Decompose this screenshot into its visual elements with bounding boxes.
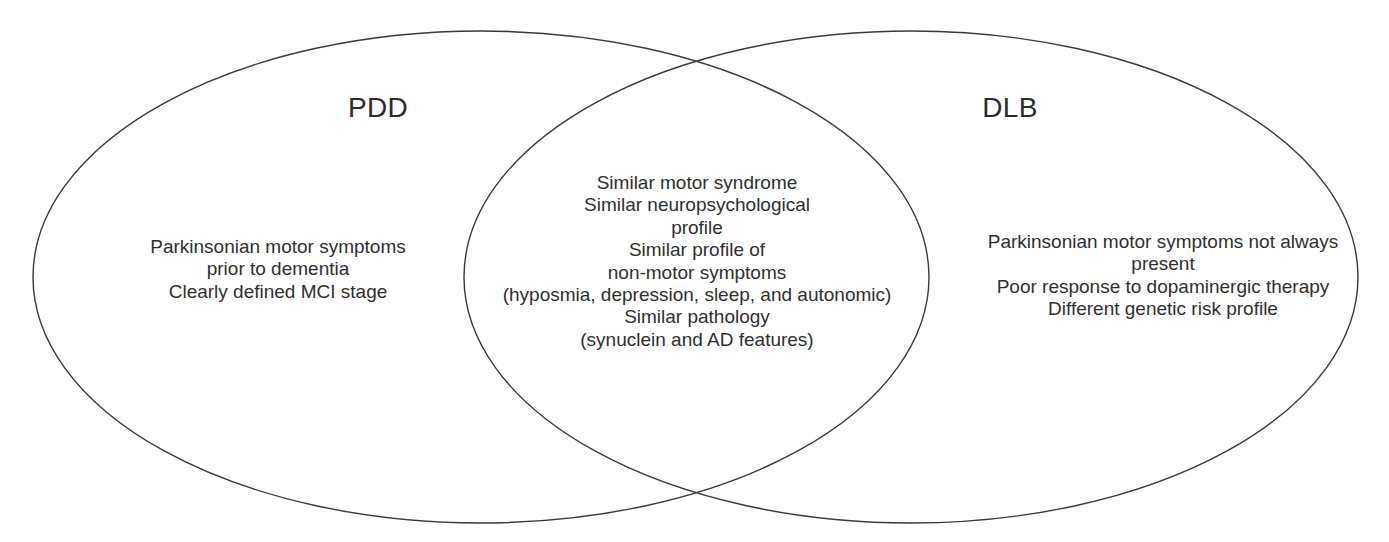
left-only-line: Parkinsonian motor symptoms: [78, 236, 478, 258]
intersection-line: Similar pathology: [462, 306, 932, 328]
left-only-region-text: Parkinsonian motor symptoms prior to dem…: [78, 236, 478, 303]
right-only-line: Different genetic risk profile: [953, 298, 1373, 320]
intersection-line: profile: [462, 217, 932, 239]
intersection-region-text: Similar motor syndrome Similar neuropsyc…: [462, 172, 932, 351]
left-set-label-pdd: PDD: [348, 92, 408, 124]
right-only-region-text: Parkinsonian motor symptoms not always p…: [953, 231, 1373, 321]
right-only-line: present: [953, 253, 1373, 275]
intersection-line: (hyposmia, depression, sleep, and autono…: [462, 284, 932, 306]
left-only-line: prior to dementia: [78, 258, 478, 280]
intersection-line: Similar motor syndrome: [462, 172, 932, 194]
intersection-line: (synuclein and AD features): [462, 329, 932, 351]
intersection-line: non-motor symptoms: [462, 262, 932, 284]
right-only-line: Poor response to dopaminergic therapy: [953, 276, 1373, 298]
venn-diagram-canvas: PDD DLB Parkinsonian motor symptoms prio…: [0, 0, 1389, 542]
right-set-label-dlb: DLB: [982, 92, 1037, 124]
intersection-line: Similar profile of: [462, 239, 932, 261]
right-only-line: Parkinsonian motor symptoms not always: [953, 231, 1373, 253]
left-only-line: Clearly defined MCI stage: [78, 281, 478, 303]
intersection-line: Similar neuropsychological: [462, 194, 932, 216]
